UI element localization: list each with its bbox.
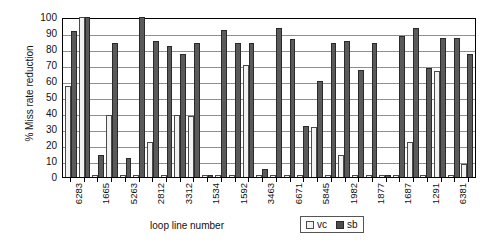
bar-sb <box>467 54 473 177</box>
bar-sb <box>180 54 186 177</box>
bar-sb <box>344 41 350 177</box>
x-tick-mark <box>372 178 373 182</box>
x-tick-mark <box>399 178 400 182</box>
x-tick-mark <box>235 178 236 182</box>
bar-group <box>324 19 338 177</box>
bar-sb <box>85 17 91 177</box>
bar-sb <box>126 158 132 177</box>
x-label-slot <box>296 183 310 217</box>
legend-label-vc: vc <box>317 219 327 230</box>
bar-sb <box>71 31 77 177</box>
x-tick-mark <box>84 178 85 182</box>
bar-sb <box>153 41 159 177</box>
x-tick-mark <box>262 178 263 182</box>
x-tick-mark <box>276 178 277 182</box>
bar-sb <box>221 30 227 177</box>
legend-item-vc: vc <box>306 219 327 230</box>
bar-sb <box>317 81 323 177</box>
bar-group <box>132 19 146 177</box>
legend-swatch-sb <box>336 221 344 229</box>
bar-group <box>91 19 105 177</box>
bar-group <box>337 19 351 177</box>
y-tick-label: 30 <box>46 125 57 135</box>
y-tick-label: 100 <box>40 13 57 23</box>
y-tick-label: 20 <box>46 141 57 151</box>
bar-group <box>105 19 119 177</box>
bar-sb <box>413 28 419 177</box>
bar-sb <box>426 68 432 177</box>
x-tick-mark <box>139 178 140 182</box>
y-tick-label: 70 <box>46 61 57 71</box>
x-tick-mark <box>331 178 332 182</box>
bar-group <box>460 19 474 177</box>
x-tick-mark <box>193 178 194 182</box>
bar-sb <box>290 39 296 177</box>
x-tick-mark <box>413 178 414 182</box>
x-tick-mark <box>221 178 222 182</box>
legend-item-sb: sb <box>336 219 358 230</box>
y-tick-label: 40 <box>46 109 57 119</box>
bar-group <box>269 19 283 177</box>
bar-chart: % Miss rate reduction 100908070605040302… <box>0 0 484 250</box>
plot-area <box>62 18 476 178</box>
bar-sb <box>276 28 282 177</box>
bar-group <box>146 19 160 177</box>
x-axis-tick-labels: 6283166552632812331215341592346366715845… <box>62 183 476 217</box>
x-label-slot <box>324 183 338 217</box>
bar-sb <box>98 155 104 177</box>
x-tick-mark <box>427 178 428 182</box>
x-axis-title: loop line number <box>62 220 312 231</box>
bar-sb <box>208 175 214 177</box>
bar-group <box>214 19 228 177</box>
bar-group <box>78 19 92 177</box>
bar-sb <box>167 46 173 177</box>
x-label-slot: 6671 <box>283 183 297 217</box>
chart-legend: vc sb <box>300 216 364 233</box>
bar-sb <box>235 43 241 177</box>
y-tick-label: 60 <box>46 77 57 87</box>
x-label-slot: 5263 <box>118 183 132 217</box>
bar-sb <box>385 175 391 177</box>
y-tick-label: 0 <box>51 173 57 183</box>
bar-group <box>296 19 310 177</box>
x-label-slot <box>104 183 118 217</box>
x-tick-mark <box>125 178 126 182</box>
bar-sb <box>399 36 405 177</box>
x-tick-mark <box>152 178 153 182</box>
bar-sb <box>262 169 268 177</box>
bar-sb <box>331 43 337 177</box>
x-tick-mark <box>70 178 71 182</box>
x-tick-mark <box>248 178 249 182</box>
x-label-slot <box>406 183 420 217</box>
y-tick-label: 10 <box>46 157 57 167</box>
bar-sb <box>358 70 364 177</box>
bar-group <box>310 19 324 177</box>
x-label-slot: 1592 <box>228 183 242 217</box>
x-label-slot <box>461 183 475 217</box>
x-tick-mark <box>207 178 208 182</box>
x-label-slot: 1291 <box>420 183 434 217</box>
x-tick-mark <box>441 178 442 182</box>
bar-group <box>433 19 447 177</box>
bar-group <box>228 19 242 177</box>
y-tick-label: 80 <box>46 45 57 55</box>
x-label-slot: 1534 <box>200 183 214 217</box>
bar-group <box>378 19 392 177</box>
bar-sb <box>440 38 446 177</box>
x-tick-mark <box>468 178 469 182</box>
bar-group <box>173 19 187 177</box>
y-tick-label: 50 <box>46 93 57 103</box>
x-label-slot: 3463 <box>255 183 269 217</box>
bar-group <box>187 19 201 177</box>
x-label-slot: 1687 <box>393 183 407 217</box>
legend-label-sb: sb <box>347 219 358 230</box>
bar-sb <box>194 43 200 177</box>
bar-sb <box>249 43 255 177</box>
x-label-slot <box>434 183 448 217</box>
x-tick-mark <box>358 178 359 182</box>
x-tick-mark <box>111 178 112 182</box>
bar-group <box>392 19 406 177</box>
bar-group <box>201 19 215 177</box>
bar-group <box>365 19 379 177</box>
x-label-slot: 3312 <box>173 183 187 217</box>
